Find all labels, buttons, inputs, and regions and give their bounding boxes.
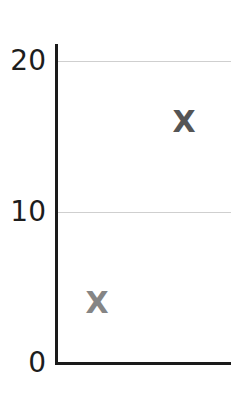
y-tick-label-20: 20 bbox=[0, 47, 46, 75]
gridline-10 bbox=[57, 212, 231, 213]
data-marker-high: X bbox=[167, 107, 201, 137]
scatter-chart: 20 10 0 X X bbox=[0, 0, 248, 415]
x-axis-line bbox=[55, 362, 231, 365]
y-tick-label-10: 10 bbox=[0, 198, 46, 226]
data-marker-low: X bbox=[80, 288, 114, 318]
y-axis-line bbox=[55, 44, 58, 365]
y-tick-label-0: 0 bbox=[0, 349, 46, 377]
gridline-20 bbox=[57, 61, 231, 62]
